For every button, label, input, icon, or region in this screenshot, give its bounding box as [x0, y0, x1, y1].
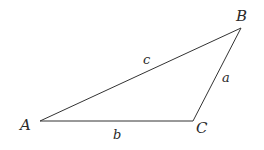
side-label-b: b	[113, 127, 121, 142]
triangle-abc	[40, 28, 241, 121]
triangle-diagram: A B C a b c	[0, 0, 264, 150]
vertex-label-b: B	[235, 7, 247, 25]
side-label-a: a	[222, 70, 230, 85]
vertex-label-c: C	[196, 119, 208, 137]
triangle-figure: A B C a b c	[0, 0, 264, 150]
vertex-label-a: A	[18, 116, 31, 134]
side-label-c: c	[143, 52, 151, 67]
